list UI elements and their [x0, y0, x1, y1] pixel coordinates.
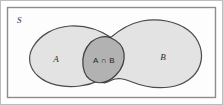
- intersection-label: A ∩ B: [93, 56, 115, 65]
- universal-set-label: S: [17, 15, 22, 25]
- venn-diagram-canvas: S A B A ∩ B: [0, 0, 223, 105]
- set-b-label: B: [160, 52, 166, 62]
- venn-diagram-figure: S A B A ∩ B: [0, 0, 223, 105]
- set-a-label: A: [52, 54, 59, 64]
